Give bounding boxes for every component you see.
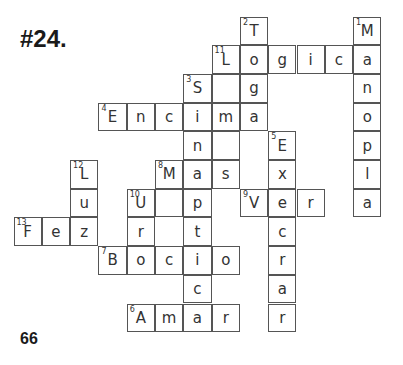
crossword-cell: x [268, 160, 296, 189]
crossword-cell: a [183, 304, 211, 333]
crossword-cell: u [70, 189, 98, 218]
crossword-cell: 4E [98, 103, 126, 132]
crossword-cell: 13F [14, 217, 42, 246]
cell-letter: p [362, 137, 372, 155]
crossword-cell: n [183, 131, 211, 160]
cell-letter: M [361, 22, 374, 40]
crossword-cell: g [268, 45, 296, 74]
cell-letter: a [363, 194, 372, 212]
cell-letter: T [249, 22, 258, 40]
clue-number: 11 [215, 47, 225, 55]
crossword-cell [212, 131, 240, 160]
cell-letter: x [278, 165, 287, 183]
cell-letter: o [363, 108, 372, 126]
cell-letter: M [163, 165, 176, 183]
crossword-cell: a [353, 45, 381, 74]
cell-letter: c [165, 108, 173, 126]
clue-number: 9 [243, 191, 248, 199]
cell-letter: n [362, 79, 372, 97]
clue-number: 6 [130, 306, 135, 314]
crossword-cell: i [183, 103, 211, 132]
clue-number: 3 [186, 76, 191, 84]
cell-letter: r [279, 251, 285, 269]
cell-letter: V [249, 194, 259, 212]
crossword-cell: z [70, 217, 98, 246]
crossword-cell [212, 74, 240, 103]
cell-letter: A [136, 309, 146, 327]
crossword-cell: m [155, 304, 183, 333]
crossword-cell: r [297, 189, 325, 218]
clue-number: 13 [17, 219, 27, 227]
crossword-cell: a [183, 160, 211, 189]
cell-letter: m [218, 108, 233, 126]
crossword-cell: c [155, 103, 183, 132]
cell-letter: E [278, 137, 287, 155]
clue-number: 1 [356, 19, 361, 27]
crossword-cell: c [325, 45, 353, 74]
crossword-cell: 6A [127, 304, 155, 333]
cell-letter: a [249, 108, 258, 126]
crossword-grid: 2T1M11Logica3Sgn4Encimaon5Ep12L8Masxlu10… [0, 0, 403, 365]
crossword-cell: 9V [240, 189, 268, 218]
cell-letter: g [278, 51, 288, 69]
clue-number: 10 [130, 191, 140, 199]
cell-letter: c [165, 251, 173, 269]
crossword-cell: r [127, 217, 155, 246]
crossword-cell: r [212, 304, 240, 333]
cell-letter: n [193, 137, 203, 155]
cell-letter: S [193, 79, 203, 97]
cell-letter: n [136, 108, 146, 126]
crossword-cell: o [240, 45, 268, 74]
crossword-cell: o [353, 103, 381, 132]
cell-letter: c [335, 51, 343, 69]
cell-letter: r [138, 223, 144, 241]
cell-letter: i [309, 51, 313, 69]
crossword-cell: o [212, 246, 240, 275]
cell-letter: l [365, 165, 369, 183]
crossword-cell: o [127, 246, 155, 275]
crossword-cell: p [353, 131, 381, 160]
cell-letter: e [278, 194, 287, 212]
crossword-cell: e [42, 217, 70, 246]
crossword-cell: r [268, 246, 296, 275]
cell-letter: s [222, 165, 230, 183]
crossword-cell: 3S [183, 74, 211, 103]
crossword-cell: c [268, 217, 296, 246]
cell-letter: m [162, 309, 177, 327]
cell-letter: o [136, 251, 145, 269]
crossword-cell: e [268, 189, 296, 218]
cell-letter: t [195, 223, 201, 241]
page-number: 66 [20, 330, 38, 348]
cell-letter: a [193, 165, 202, 183]
clue-number: 12 [73, 162, 83, 170]
cell-letter: i [195, 251, 199, 269]
cell-letter: a [278, 280, 287, 298]
crossword-cell: 10U [127, 189, 155, 218]
cell-letter: E [108, 108, 117, 126]
cell-letter: a [363, 51, 372, 69]
clue-number: 7 [101, 248, 106, 256]
crossword-cell: g [240, 74, 268, 103]
crossword-cell: c [183, 275, 211, 304]
crossword-cell: n [353, 74, 381, 103]
crossword-cell: a [353, 189, 381, 218]
crossword-cell: n [127, 103, 155, 132]
crossword-cell: i [183, 246, 211, 275]
cell-letter: c [193, 280, 201, 298]
cell-letter: i [195, 108, 199, 126]
crossword-cell: 7B [98, 246, 126, 275]
crossword-cell: 12L [70, 160, 98, 189]
crossword-cell: a [240, 103, 268, 132]
crossword-cell: c [155, 246, 183, 275]
cell-letter: u [79, 194, 89, 212]
crossword-cell: l [353, 160, 381, 189]
cell-letter: g [249, 79, 259, 97]
crossword-cell: t [183, 217, 211, 246]
cell-letter: o [249, 51, 258, 69]
clue-number: 2 [243, 19, 248, 27]
crossword-cell: r [268, 304, 296, 333]
crossword-cell: a [268, 275, 296, 304]
crossword-cell: p [183, 189, 211, 218]
cell-letter: z [80, 223, 88, 241]
clue-number: 4 [101, 105, 106, 113]
